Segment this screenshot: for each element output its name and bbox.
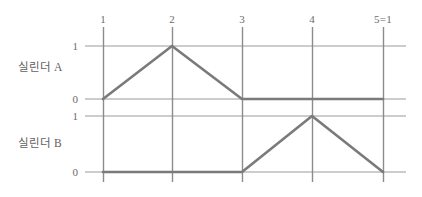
y-value-a-high: 1 — [62, 41, 78, 52]
y-value-a-low: 0 — [62, 94, 78, 105]
diagram-canvas: 1 2 3 4 5=1 1 0 1 0 실린더 A 실린더 B — [0, 0, 422, 197]
x-tick-label-4: 4 — [309, 14, 315, 25]
y-value-b-low: 0 — [62, 167, 78, 178]
x-tick-label-3: 3 — [239, 14, 245, 25]
y-value-b-high: 1 — [62, 111, 78, 122]
series-label-cylinder-a: 실린더 A — [18, 61, 62, 73]
x-tick-label-2: 2 — [169, 14, 175, 25]
x-tick-label-5: 5=1 — [374, 14, 392, 25]
step-lines — [104, 27, 384, 182]
x-tick-label-1: 1 — [100, 14, 106, 25]
series-label-cylinder-b: 실린더 B — [18, 137, 62, 149]
